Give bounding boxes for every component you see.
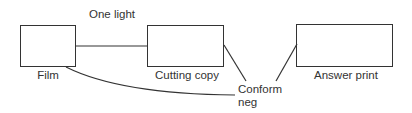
node-answer-print-label: Answer print bbox=[314, 69, 378, 82]
node-film-box bbox=[20, 25, 76, 67]
node-cutting-copy-box bbox=[147, 25, 224, 67]
film-workflow-diagram: One light Film Cutting copy Answer print… bbox=[0, 0, 412, 113]
node-film-label: Film bbox=[37, 69, 59, 82]
edge-label-one-light: One light bbox=[89, 8, 135, 21]
edge-conform-neg-to-answer-print bbox=[276, 44, 297, 81]
edge-cutting-copy-to-conform-neg bbox=[224, 45, 246, 81]
junction-conform-neg-label-line1: Conform bbox=[238, 83, 282, 96]
node-answer-print-box bbox=[296, 24, 393, 67]
junction-conform-neg-label-line2: neg bbox=[238, 96, 257, 109]
node-cutting-copy-label: Cutting copy bbox=[155, 69, 219, 82]
